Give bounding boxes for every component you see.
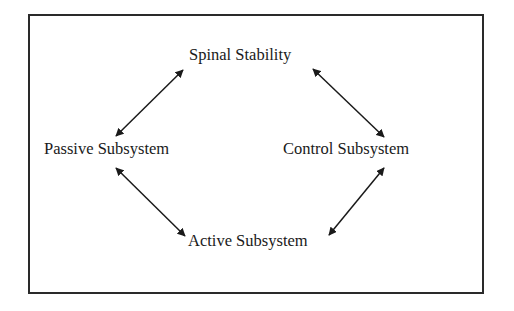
arrow-stability-control (313, 69, 384, 137)
node-spinal-stability: Spinal Stability (189, 47, 291, 64)
node-control-subsystem: Control Subsystem (283, 141, 409, 158)
arrow-stability-passive (116, 70, 183, 136)
node-active-subsystem: Active Subsystem (188, 233, 308, 250)
node-passive-subsystem: Passive Subsystem (44, 141, 169, 158)
arrow-control-active (329, 168, 384, 235)
arrow-passive-active (116, 168, 185, 236)
